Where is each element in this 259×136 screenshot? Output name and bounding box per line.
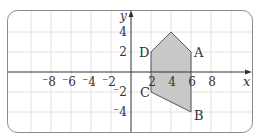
axes — [8, 10, 252, 132]
coordinate-plane-svg: x y ⁻8 ⁻6 ⁻4 ⁻2 2 4 6 8 4 2 ⁻2 ⁻4 D A C … — [0, 0, 259, 136]
x-tick-label: ⁻4 — [82, 75, 96, 89]
x-tick-label: ⁻6 — [62, 75, 76, 89]
x-tick-label: 8 — [208, 75, 216, 89]
vertex-label-d: D — [139, 45, 149, 60]
vertex-label-c: C — [140, 85, 150, 100]
coordinate-plane-figure: x y ⁻8 ⁻6 ⁻4 ⁻2 2 4 6 8 4 2 ⁻2 ⁻4 D A C … — [0, 0, 259, 136]
vertex-label-a: A — [193, 45, 204, 60]
y-axis-label: y — [119, 9, 127, 23]
x-tick-label: 6 — [188, 75, 196, 89]
y-tick-label: ⁻2 — [113, 85, 127, 99]
y-tick-label: 4 — [119, 25, 127, 39]
x-tick-labels: ⁻8 ⁻6 ⁻4 ⁻2 2 4 6 8 — [42, 75, 216, 89]
x-tick-label: 4 — [168, 75, 176, 89]
y-tick-label: ⁻4 — [113, 105, 127, 119]
y-tick-label: 2 — [119, 45, 127, 59]
y-axis-arrow-icon — [129, 10, 134, 17]
x-tick-label: ⁻8 — [42, 75, 56, 89]
x-axis-label: x — [243, 74, 251, 89]
vertex-label-b: B — [194, 108, 204, 123]
